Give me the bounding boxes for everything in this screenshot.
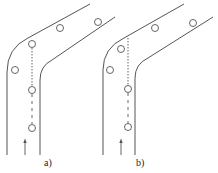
- particle: [125, 86, 132, 93]
- inner-wall-a: [40, 17, 115, 155]
- outer-wall-a: [7, 4, 90, 155]
- particle: [95, 19, 102, 26]
- particle: [57, 25, 64, 32]
- particle: [118, 46, 125, 53]
- panel-label-a: a): [44, 157, 52, 169]
- particle: [29, 125, 36, 132]
- diagram: a) b): [0, 0, 218, 173]
- particle: [29, 87, 36, 94]
- panel-a: a): [7, 4, 115, 169]
- particle: [107, 67, 114, 74]
- particle: [125, 124, 132, 131]
- particle: [29, 41, 36, 48]
- inner-wall-b: [135, 17, 213, 155]
- particle: [152, 25, 159, 32]
- outer-wall-b: [103, 4, 184, 155]
- particle: [190, 20, 197, 27]
- flow-arrow-icon: [23, 139, 26, 156]
- panel-b: b): [103, 4, 213, 169]
- flow-arrow-icon: [119, 139, 122, 156]
- particle: [12, 67, 19, 74]
- panel-label-b: b): [136, 157, 144, 169]
